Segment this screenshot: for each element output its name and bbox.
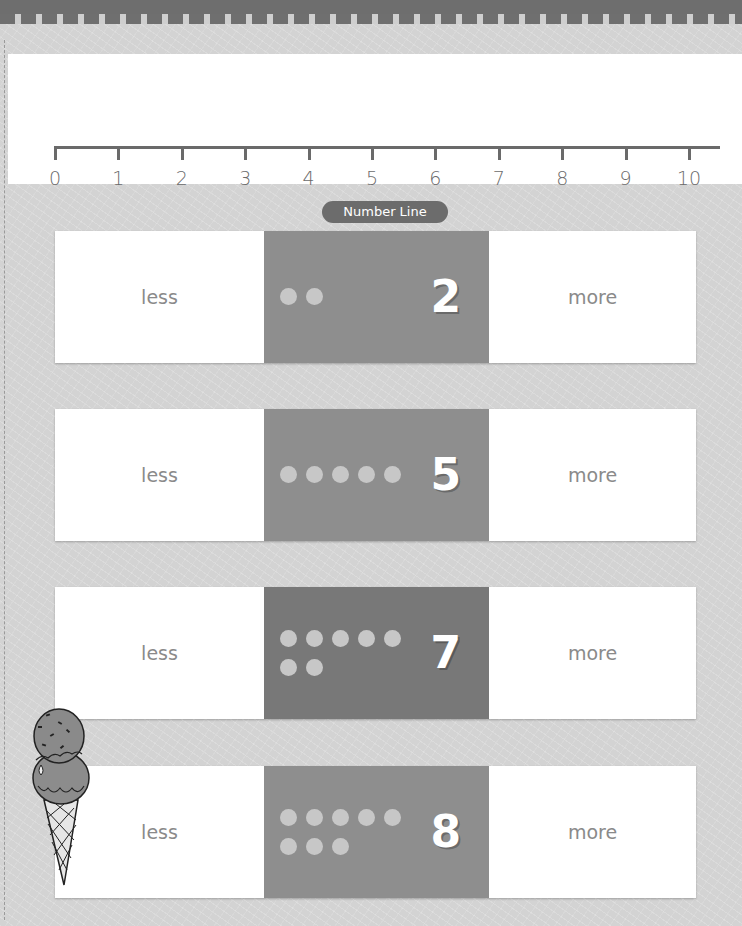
counting-dots (280, 231, 420, 363)
number-card: 7 (264, 587, 489, 719)
counting-dot (306, 838, 323, 855)
number-line-label: 8 (547, 167, 577, 189)
number-line-label: 10 (674, 167, 704, 189)
more-box[interactable]: more (489, 587, 696, 719)
number-card: 2 (264, 231, 489, 363)
number-line-label: 7 (484, 167, 514, 189)
number-line-label: 0 (40, 167, 70, 189)
counting-dots (280, 409, 420, 541)
less-box[interactable]: less (55, 409, 264, 541)
more-label: more (568, 286, 617, 308)
number-line-label: 5 (357, 167, 387, 189)
checkered-border (0, 14, 742, 24)
comparison-row: less2more (55, 231, 696, 363)
more-label: more (568, 821, 617, 843)
comparison-row: less7more (55, 587, 696, 719)
counting-dot (358, 809, 375, 826)
number-value: 2 (430, 231, 461, 363)
counting-dot (306, 466, 323, 483)
number-line-label: 3 (230, 167, 260, 189)
counting-dot (384, 630, 401, 647)
number-line-label: 6 (420, 167, 450, 189)
number-line-tick (434, 146, 437, 160)
top-bar (0, 0, 742, 14)
ice-cream-cone-icon (26, 700, 96, 890)
number-line-tick (308, 146, 311, 160)
counting-dot (280, 630, 297, 647)
less-label: less (141, 286, 178, 308)
counting-dot (306, 630, 323, 647)
less-label: less (141, 464, 178, 486)
number-line-tick (117, 146, 120, 160)
number-card: 5 (264, 409, 489, 541)
number-value: 7 (430, 587, 461, 719)
number-line-tick (561, 146, 564, 160)
counting-dot (280, 466, 297, 483)
comparison-row: less5more (55, 409, 696, 541)
dashed-cut-line (4, 40, 5, 920)
counting-dot (358, 466, 375, 483)
counting-dot (332, 630, 349, 647)
number-line-label: 4 (294, 167, 324, 189)
counting-dot (306, 809, 323, 826)
counting-dot (384, 466, 401, 483)
counting-dot (280, 659, 297, 676)
counting-dot (280, 288, 297, 305)
number-value: 5 (430, 409, 461, 541)
more-label: more (568, 464, 617, 486)
counting-dots (280, 766, 420, 898)
counting-dot (332, 809, 349, 826)
number-card: 8 (264, 766, 489, 898)
counting-dot (306, 288, 323, 305)
number-line-tick (688, 146, 691, 160)
number-line-tick (625, 146, 628, 160)
number-line-label: 2 (167, 167, 197, 189)
number-line-label: 1 (103, 167, 133, 189)
more-box[interactable]: more (489, 231, 696, 363)
counting-dot (384, 809, 401, 826)
counting-dot (358, 630, 375, 647)
more-box[interactable]: more (489, 409, 696, 541)
less-label: less (141, 821, 178, 843)
counting-dot (280, 809, 297, 826)
less-box[interactable]: less (55, 231, 264, 363)
number-line-tick (54, 146, 57, 160)
number-line-label: 9 (611, 167, 641, 189)
less-label: less (141, 642, 178, 664)
number-line-caption: Number Line (322, 201, 448, 223)
counting-dot (332, 838, 349, 855)
number-value: 8 (430, 766, 461, 898)
counting-dot (280, 838, 297, 855)
counting-dots (280, 587, 420, 719)
comparison-row: less8more (55, 766, 696, 898)
more-label: more (568, 642, 617, 664)
number-line-tick (181, 146, 184, 160)
number-line-axis (54, 146, 720, 149)
counting-dot (332, 466, 349, 483)
counting-dot (306, 659, 323, 676)
number-line-tick (371, 146, 374, 160)
number-line-panel: 012345678910 Number Line (8, 54, 742, 184)
number-line-tick (498, 146, 501, 160)
number-line-tick (244, 146, 247, 160)
more-box[interactable]: more (489, 766, 696, 898)
